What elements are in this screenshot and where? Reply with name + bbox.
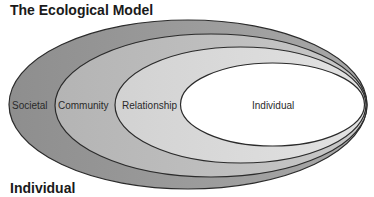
label-individual: Individual [252, 100, 294, 111]
ecological-model-diagram: Societal Community Relationship Individu… [0, 0, 374, 197]
label-societal: Societal [12, 100, 48, 111]
label-relationship: Relationship [122, 100, 177, 111]
footer-label: Individual [10, 180, 75, 196]
label-community: Community [58, 100, 109, 111]
